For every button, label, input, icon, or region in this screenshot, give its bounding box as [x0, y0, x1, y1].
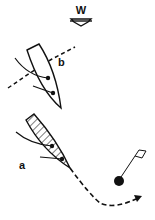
flag-icon: [135, 150, 146, 158]
flag-pole: [121, 156, 135, 177]
boat-b: b: [15, 44, 65, 108]
boat-a-track: [70, 168, 140, 205]
boat-b-forestay: [51, 91, 55, 95]
boat-b-label: b: [58, 56, 65, 68]
boat-b-hull: [27, 44, 61, 108]
diagram-canvas: W b a: [0, 0, 155, 220]
boat-a-label: a: [19, 159, 26, 171]
wind-arrow-icon: [71, 19, 91, 26]
buoy-icon: [114, 176, 124, 186]
boat-a-forestay: [60, 157, 64, 161]
wind-label: W: [76, 4, 87, 16]
boat-a-mast: [50, 144, 54, 148]
boat-a: a: [16, 114, 70, 171]
wind-indicator: W: [70, 4, 92, 26]
boat-b-mast: [46, 76, 50, 80]
mark: [114, 150, 146, 186]
